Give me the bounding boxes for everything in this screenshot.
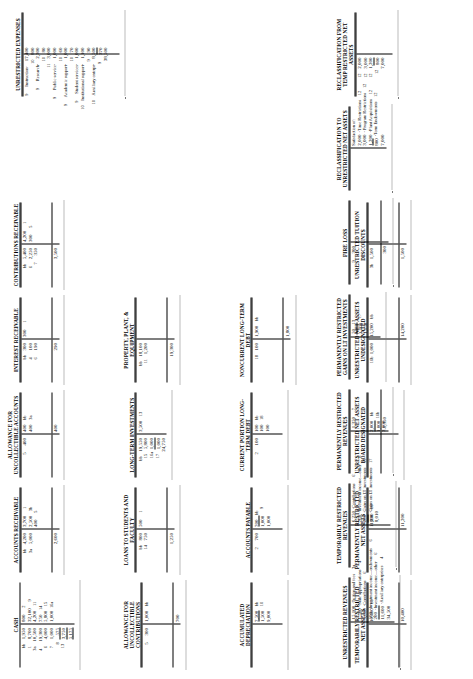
entry-ref: 9 bbox=[62, 99, 68, 106]
entry-ref: bb bbox=[21, 415, 27, 422]
t-account-permanently-restricted-gains: PERMANENTLY RESTRICTED GAINS ON LT INVES… bbox=[335, 290, 386, 382]
account-footer: 400 bbox=[51, 392, 59, 477]
entry-ref: 3a bbox=[27, 415, 33, 422]
entry-amount: 1,950 bbox=[20, 628, 26, 639]
entry-ref bbox=[264, 415, 270, 422]
divider bbox=[287, 390, 288, 479]
entry-amount: 300 bbox=[143, 628, 149, 636]
account-footer: 1,250 bbox=[166, 487, 174, 572]
debit-column: bb1,950 18,700 3a10,500 419,300 64,000 7… bbox=[20, 625, 74, 668]
entry-amount: 300 bbox=[350, 245, 356, 253]
entry-amount: 400 bbox=[21, 438, 27, 446]
entry-amount: 1,000 bbox=[73, 47, 79, 58]
account-title: PERMANENTLY RESTRICTED REVENUES bbox=[335, 389, 349, 473]
divider bbox=[185, 580, 186, 669]
entry-amount: 400 bbox=[21, 424, 27, 432]
t-account-property-plant-equipment: PROPERTY, PLANT, & EQUIPMENT bb18,100 11… bbox=[122, 293, 180, 386]
account-title: INTEREST RECEIVABLE bbox=[6, 297, 20, 382]
cell-allowance-uncollectible-accounts: ALLOWANCE FOR UNCOLLECTIBLE ACCOUNTS 540… bbox=[6, 388, 120, 481]
expense-label: Instruction- bbox=[23, 66, 29, 87]
entry-amount: 200 bbox=[372, 611, 378, 619]
account-title: PROPERTY, PLANT, & EQUIPMENT bbox=[122, 297, 136, 382]
account-body: bb19,550 155,800 16a1,000 171,000 24,750… bbox=[135, 392, 166, 477]
account-title: NONCURRENT LONG-TERM DEBT bbox=[238, 297, 252, 382]
account-balance: 9,000 bbox=[265, 610, 271, 621]
entry-amount: 750 bbox=[37, 614, 43, 622]
cell-accounts-receivable: ACCOUNTS RECEIVABLE bb4,200 3a5,000 3,70… bbox=[6, 483, 120, 576]
debit-column bbox=[350, 622, 394, 667]
entry-amount: 1,200 bbox=[142, 343, 148, 354]
debit-column bbox=[350, 337, 380, 379]
entry-ref: 11 bbox=[142, 356, 148, 363]
account-balance: 34,500 bbox=[385, 605, 391, 619]
entry-amount: 350 bbox=[32, 248, 38, 256]
cell-empty-r2c5 bbox=[122, 198, 236, 291]
entry-amount: 80 bbox=[40, 47, 46, 52]
t-account-unrestricted-revenues: UNRESTRICTED REVENUES 15,1003a-Tuition a… bbox=[335, 573, 400, 671]
divider bbox=[391, 104, 392, 192]
entry-amount: 50 bbox=[350, 329, 356, 334]
expense-label: Institutional support- bbox=[79, 63, 85, 100]
entry-amount: 1,000 bbox=[258, 515, 265, 526]
t-account-cash: CASH bb1,950 18,700 3a10,500 419,300 64,… bbox=[6, 578, 80, 671]
t-account-reclassification-from-temp-restricted: RECLASSIFICATION FROM TEMP RESTRICTED NE… bbox=[335, 8, 398, 100]
account-body: 7,500bb 1,50010 9,000 bbox=[251, 582, 282, 667]
entry-ref: 10 bbox=[68, 54, 74, 61]
entry-ref: 7 bbox=[32, 257, 38, 264]
entry-amount: 100 bbox=[258, 424, 264, 432]
entry-ref: 6 bbox=[361, 571, 367, 578]
t-account-contributions-receivable: CONTRIBUTIONS RECEIVABLE bb5,400 62,250 … bbox=[6, 198, 64, 291]
credit-column bbox=[136, 297, 166, 340]
entry-amount: 4,000 bbox=[42, 628, 48, 639]
entry-label: -Tuition and fees bbox=[350, 573, 356, 603]
entry-ref: bb bbox=[143, 601, 149, 608]
entry-ref: 10 bbox=[29, 56, 35, 63]
account-balance: 3,500 bbox=[52, 248, 58, 259]
entry-amount: 70 bbox=[68, 47, 74, 52]
credit-column: 1,3507 bbox=[350, 389, 380, 431]
credit-column: 3,50013 bbox=[136, 392, 166, 435]
entry-amount: 1,500 bbox=[356, 608, 362, 619]
account-title: ACCUMULATED DEPRECIATION bbox=[238, 582, 252, 667]
entry-ref: bb bbox=[137, 453, 143, 460]
account-balance: 1,150 bbox=[362, 322, 368, 333]
divider bbox=[179, 485, 180, 574]
entry-amount: 4,200 bbox=[21, 533, 27, 544]
credit-column: 5013 1,10017 1,150 bbox=[350, 294, 380, 336]
entry-ref: 1 bbox=[21, 320, 27, 327]
cell-noncurrent-long-term-debt: NONCURRENT LONG-TERM DEBT 18100 1,900bb … bbox=[238, 293, 352, 386]
account-balance: 1,250 bbox=[168, 533, 174, 544]
cell-cash: CASH bb1,950 18,700 3a10,500 419,300 64,… bbox=[6, 578, 120, 671]
account-title: FIRE LOSS bbox=[335, 200, 349, 284]
entry-ref: 16a bbox=[48, 601, 54, 608]
entry-ref: 12 bbox=[373, 67, 380, 74]
account-balance: 8,010 bbox=[373, 511, 379, 522]
debit-column: 122,000 123,000 121,200 12800 7,000 bbox=[356, 54, 392, 96]
debit-column: bb4,200 3a5,000 bbox=[21, 530, 51, 573]
entry-amount: 5,400 bbox=[21, 248, 27, 259]
entry-amount: 1,350 bbox=[350, 416, 356, 427]
entry-amount: 1,900 bbox=[253, 325, 259, 336]
entry-ref: 10 bbox=[90, 97, 96, 104]
entry-amount: 1,500 bbox=[258, 610, 265, 621]
account-body: 1,3507 bbox=[349, 389, 380, 473]
account-balance: 300 bbox=[381, 245, 387, 253]
t-account-accounts-receivable: ACCOUNTS RECEIVABLE bb4,200 3a5,000 3,70… bbox=[6, 483, 64, 576]
account-footer: 1,350 bbox=[380, 389, 388, 473]
account-title: RECLASSIFICATION FROM TEMP RESTRICTED NE… bbox=[335, 12, 355, 96]
entry-amount: 15,100 bbox=[350, 605, 356, 619]
account-title: UNRESTRICTED REVENUES bbox=[335, 577, 349, 667]
legend-heading: Satisfaction of: bbox=[350, 119, 356, 146]
debit-column: 2700 bbox=[252, 530, 282, 573]
debit-column: 18100 bbox=[252, 340, 282, 383]
account-body: bb1,950 18,700 3a10,500 419,300 64,000 7… bbox=[19, 582, 74, 667]
cell-permanently-restricted-revenues: PERMANENTLY RESTRICTED REVENUES 1,3507 1… bbox=[335, 385, 467, 477]
debit-column: bb300 4100 6190 bbox=[21, 340, 51, 383]
entry-ref: 1 bbox=[137, 510, 143, 517]
entry-ref: 9 bbox=[96, 56, 103, 63]
debit-column: 5300 bbox=[142, 625, 172, 668]
divider bbox=[124, 10, 125, 98]
entry-ref: 9 bbox=[34, 83, 40, 90]
account-title: ACCOUNTS PAYABLE bbox=[238, 487, 252, 572]
account-title: CONTRIBUTIONS RECEIVABLE bbox=[6, 202, 20, 287]
